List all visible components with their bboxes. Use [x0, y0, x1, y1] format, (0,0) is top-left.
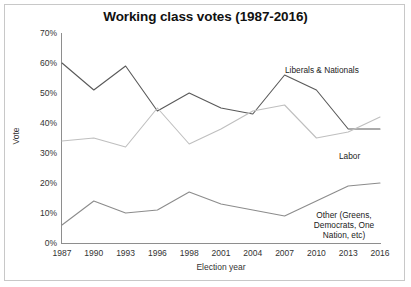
x-tick-2007: 2007 — [275, 248, 294, 258]
y-tick-0: 0% — [45, 238, 57, 248]
y-tick-20: 20% — [40, 178, 57, 188]
annotation-liberals-nationals: Liberals & Nationals — [285, 66, 359, 76]
x-tick-1987: 1987 — [53, 248, 72, 258]
annotation-other: Other (Greens, Democrats, One Nation, et… — [292, 211, 396, 240]
y-tick-40: 40% — [40, 118, 57, 128]
x-axis-label: Election year — [62, 262, 380, 272]
annotation-other-line3: Nation, etc) — [292, 231, 396, 241]
y-tick-30: 30% — [40, 148, 57, 158]
x-tick-2001: 2001 — [212, 248, 231, 258]
x-tick-1993: 1993 — [116, 248, 135, 258]
y-axis-tick-labels: 70% 60% 50% 40% 30% 20% 10% 0% — [0, 0, 57, 287]
x-tick-2004: 2004 — [243, 248, 262, 258]
y-tick-60: 60% — [40, 58, 57, 68]
y-tick-10: 10% — [40, 208, 57, 218]
chart-figure: Working class votes (1987-2016) 70% 60% … — [0, 0, 411, 287]
series-line-1 — [62, 105, 380, 147]
x-axis-line — [61, 243, 381, 244]
y-tick-50: 50% — [40, 88, 57, 98]
chart-title: Working class votes (1987-2016) — [0, 9, 411, 24]
x-tick-2016: 2016 — [371, 248, 390, 258]
y-tick-70: 70% — [40, 28, 57, 38]
annotation-labor: Labor — [339, 152, 360, 162]
y-axis-label: Vote — [11, 116, 21, 156]
x-tick-1998: 1998 — [180, 248, 199, 258]
x-tick-2010: 2010 — [307, 248, 326, 258]
x-tick-1996: 1996 — [148, 248, 167, 258]
x-tick-2013: 2013 — [339, 248, 358, 258]
x-tick-1990: 1990 — [84, 248, 103, 258]
